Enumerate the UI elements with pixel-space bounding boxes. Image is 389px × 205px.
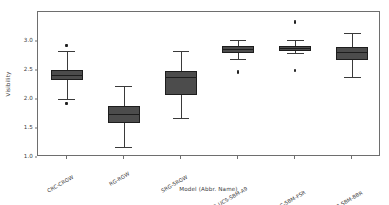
x-axis-tick-mark	[123, 156, 124, 159]
median-line	[336, 52, 368, 53]
y-axis-tick-label: 2.0	[24, 96, 33, 102]
y-axis-tick-label: 3.0	[24, 38, 33, 44]
whisker-upper	[352, 33, 353, 47]
y-axis-tick-label: 2.5	[24, 67, 33, 73]
x-axis-tick-mark	[351, 156, 352, 159]
x-axis-tick-label: CRI-NRS-DRC-SBM-BBR	[309, 190, 364, 205]
boxplot-figure: Visibility 1.01.52.02.53.0 CRC-CRGWRG-RG…	[0, 0, 389, 205]
boxplot-box	[38, 12, 381, 155]
x-axis-tick-group: CRC-CRGWRG-RGWSRG-SRGWCRI-E9-UCS-SBM-A9C…	[37, 156, 380, 186]
boxplot-data-layer	[38, 12, 379, 155]
box-iqr-rect	[336, 47, 368, 60]
cap-upper	[344, 33, 361, 34]
x-axis-tick-mark	[294, 156, 295, 159]
plot-area	[37, 11, 380, 156]
x-axis-tick-mark	[237, 156, 238, 159]
y-axis-tick-label: 1.5	[24, 125, 33, 131]
x-axis-tick-mark	[66, 156, 67, 159]
whisker-lower	[352, 60, 353, 77]
x-axis-tick-label: RG-RGW	[108, 171, 130, 187]
y-axis-tick-label: 1.0	[24, 154, 33, 160]
x-axis-label: Model (Abbr. Name)	[37, 186, 380, 192]
x-axis-tick-mark	[180, 156, 181, 159]
x-axis-tick-label: CRI-NRS-DRC-SBM-FSR	[252, 190, 307, 205]
y-axis-tick-group: 1.01.52.02.53.0	[0, 11, 37, 156]
cap-lower	[344, 77, 361, 78]
